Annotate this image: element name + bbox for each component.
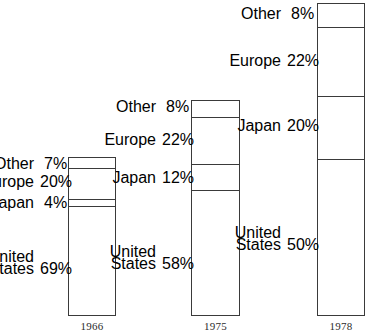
label-percent: 20% xyxy=(40,176,72,188)
label-percent: 4% xyxy=(44,197,67,209)
label-1966-europe: Europe 20% xyxy=(0,176,62,187)
label-1978-japan: Japan 20% xyxy=(247,120,311,131)
bar-1975 xyxy=(191,100,240,316)
label-name: Other xyxy=(241,8,281,20)
label-percent: 12% xyxy=(162,172,194,184)
label-percent: 22% xyxy=(287,55,319,67)
label-percent: 8% xyxy=(166,101,189,113)
label-1978-united-states: United States 50% xyxy=(247,227,311,251)
label-name-line2: States xyxy=(111,258,156,270)
label-1966-other: Other 7% xyxy=(0,158,62,169)
segment-1978-united-states xyxy=(318,160,364,315)
segment-1975-united-states xyxy=(192,191,239,315)
label-1975-japan: Japan 12% xyxy=(122,172,186,183)
label-name: Japan xyxy=(0,197,34,209)
label-percent: 20% xyxy=(287,120,319,132)
segment-1975-other xyxy=(192,101,239,118)
axis-label-1966: 1966 xyxy=(68,320,116,332)
segment-1978-europe xyxy=(318,28,364,97)
stacked-bar-chart: Other 7% Europe 20% Japan 4% United Stat… xyxy=(0,0,367,336)
label-name: Europe xyxy=(229,55,281,67)
label-name: Other xyxy=(116,101,156,113)
segment-1978-other xyxy=(318,4,364,28)
label-name: Other xyxy=(0,158,34,170)
label-name: Europe xyxy=(104,134,156,146)
segment-1975-europe xyxy=(192,118,239,165)
segment-1975-japan xyxy=(192,165,239,191)
label-name-line2: States xyxy=(0,263,34,275)
label-1966-japan: Japan 4% xyxy=(0,197,62,208)
label-percent: 22% xyxy=(162,134,194,146)
segment-1966-japan xyxy=(69,200,115,207)
label-1978-other: Other 8% xyxy=(247,8,311,19)
segment-1966-united-states xyxy=(69,207,115,315)
label-percent: 50% xyxy=(287,239,319,251)
label-percent: 58% xyxy=(162,258,194,270)
label-1975-europe: Europe 22% xyxy=(122,134,186,145)
label-name: Europe xyxy=(0,176,34,188)
label-percent: 8% xyxy=(291,8,314,20)
label-percent: 7% xyxy=(44,158,67,170)
label-name: Japan xyxy=(237,120,281,132)
axis-label-1978: 1978 xyxy=(317,320,365,332)
bar-1966 xyxy=(68,157,116,316)
label-name-line2: States xyxy=(236,239,281,251)
segment-1966-other xyxy=(69,158,115,169)
label-1966-united-states: United States 69% xyxy=(0,251,62,275)
label-1978-europe: Europe 22% xyxy=(247,55,311,66)
bar-1978 xyxy=(317,3,365,316)
axis-label-1975: 1975 xyxy=(191,320,240,332)
label-1975-united-states: United States 58% xyxy=(122,246,186,270)
label-name: Japan xyxy=(112,172,156,184)
segment-1966-europe xyxy=(69,169,115,200)
label-percent: 69% xyxy=(40,263,72,275)
segment-1978-japan xyxy=(318,97,364,160)
label-1975-other: Other 8% xyxy=(122,101,186,112)
